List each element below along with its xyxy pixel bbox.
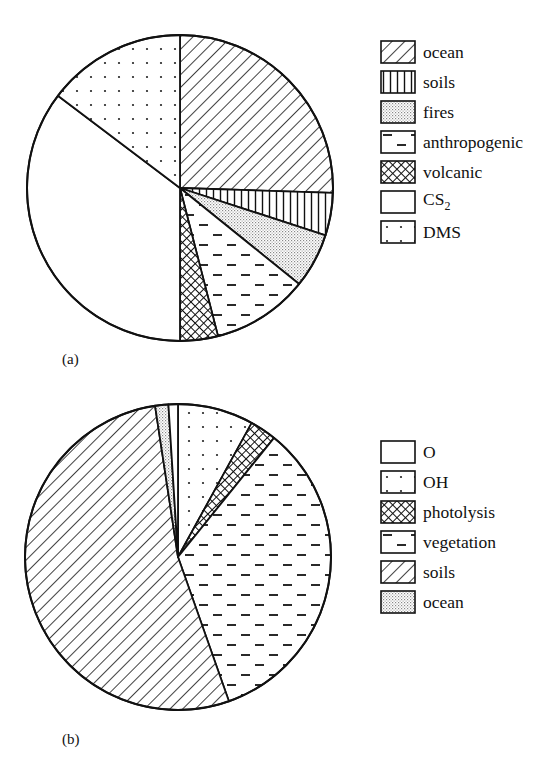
panel-label-b: (b) (62, 731, 80, 748)
legend-b-item-ocean: ocean (380, 590, 464, 614)
legend-a-item-cs: CS2 (380, 190, 450, 214)
legend-b-item-oh: OH (380, 470, 448, 494)
legend-swatch-dots-icon (380, 470, 416, 494)
legend-swatch-stipple-icon (380, 590, 416, 614)
legend-label: ocean (423, 590, 464, 614)
legend-label: fires (423, 100, 454, 124)
legend-a-item-dms: DMS (380, 220, 461, 244)
legend-b-item-soils: soils (380, 560, 455, 584)
legend-label: vegetation (423, 530, 496, 554)
legend-swatch-vert-icon (380, 70, 416, 94)
legend-b-item-o: O (380, 440, 436, 464)
legend-swatch-dots-icon (380, 220, 416, 244)
legend-swatch-dash-icon (380, 130, 416, 154)
legend-swatch-stipple-icon (380, 100, 416, 124)
legend-a-item-anthropogenic: anthropogenic (380, 130, 523, 154)
legend-label: anthropogenic (423, 130, 523, 154)
legend-swatch-none-icon (380, 440, 416, 464)
legend-label: ocean (423, 40, 464, 64)
legend-label: soils (423, 70, 455, 94)
legend-label: OH (423, 470, 448, 494)
legend-a-item-soils: soils (380, 70, 455, 94)
legend-b-item-photolysis: photolysis (380, 500, 495, 524)
legend-swatch-diag-icon (380, 560, 416, 584)
legend-label: soils (423, 560, 455, 584)
legend-swatch-dash-icon (380, 530, 416, 554)
legend-label: CS2 (423, 187, 450, 218)
legend-label: O (423, 440, 436, 464)
legend-label: volcanic (423, 160, 482, 184)
legend-swatch-none-icon (380, 190, 416, 214)
figure: (a) (b) oceansoilsfiresanthropogenicvolc… (0, 0, 554, 769)
pie-a-slice-ocean (180, 35, 333, 193)
legend-swatch-cross-icon (380, 500, 416, 524)
legend-label: photolysis (423, 500, 495, 524)
legend-swatch-cross-icon (380, 160, 416, 184)
legend-a-item-volcanic: volcanic (380, 160, 482, 184)
legend-b-item-vegetation: vegetation (380, 530, 496, 554)
legend-swatch-diag-icon (380, 40, 416, 64)
legend-label-subscript: 2 (444, 198, 450, 212)
pie-chart-a (27, 35, 333, 341)
pie-chart-b (25, 404, 331, 710)
legend-label: DMS (423, 220, 461, 244)
legend-a-item-fires: fires (380, 100, 454, 124)
legend-a-item-ocean: ocean (380, 40, 464, 64)
panel-label-a: (a) (62, 351, 79, 368)
pie-charts-canvas (0, 0, 554, 769)
